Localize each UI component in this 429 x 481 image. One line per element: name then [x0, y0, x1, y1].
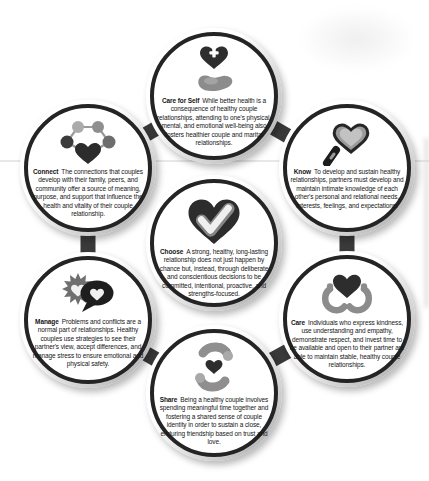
node-label: Share [160, 396, 178, 403]
network-heart-icon [59, 118, 117, 166]
heart-checkmark-icon [186, 196, 242, 246]
scan-artifact-edge [424, 138, 429, 308]
node-label: Care for Self [162, 97, 199, 104]
node-blurb: ManageProblems and conflicts are a norma… [30, 318, 146, 369]
node-blurb: ChooseA strong, healthy, long-lasting re… [156, 248, 272, 299]
node-blurb: KnowTo develop and sustain healthy relat… [289, 168, 405, 210]
node-care-for-self: Care for SelfWhile better health is a co… [146, 28, 282, 164]
node-blurb: ShareBeing a healthy couple involves spe… [156, 396, 272, 447]
heart-magnifier-icon [322, 118, 372, 166]
node-text: Problems and conflicts are a normal part… [33, 318, 143, 367]
diagram-canvas: Care for SelfWhile better health is a co… [0, 0, 429, 481]
heart-cross-and-hand-icon [191, 43, 237, 95]
node-text: Individuals who express kindness, use un… [290, 319, 405, 368]
conflict-speech-bubbles-icon [59, 272, 117, 316]
node-label: Know [294, 168, 311, 175]
node-blurb: CareIndividuals who express kindness, us… [289, 319, 405, 370]
node-share: ShareBeing a healthy couple involves spe… [146, 325, 282, 461]
node-blurb: ConnectThe connections that couples deve… [30, 168, 146, 219]
node-label: Connect [33, 168, 58, 175]
node-manage: ManageProblems and conflicts are a norma… [20, 252, 156, 388]
node-connect: ConnectThe connections that couples deve… [20, 100, 156, 236]
node-text: Being a healthy couple involves spending… [160, 396, 269, 445]
node-text: The connections that couples develop wit… [34, 168, 143, 217]
node-text: While better health is a consequence of … [157, 97, 271, 146]
node-know: KnowTo develop and sustain healthy relat… [279, 100, 415, 236]
node-text: A strong, healthy, long-lasting relation… [160, 248, 269, 297]
node-label: Care [291, 319, 305, 326]
node-label: Choose [160, 248, 183, 255]
node-blurb: Care for SelfWhile better health is a co… [156, 97, 272, 148]
heart-in-hands-icon [321, 269, 373, 317]
scan-artifact-smudge [298, 6, 416, 72]
node-label: Manage [35, 318, 59, 325]
node-care: CareIndividuals who express kindness, us… [279, 251, 415, 387]
node-choose: ChooseA strong, healthy, long-lasting re… [146, 175, 282, 311]
sharing-hands-heart-icon [191, 340, 237, 394]
